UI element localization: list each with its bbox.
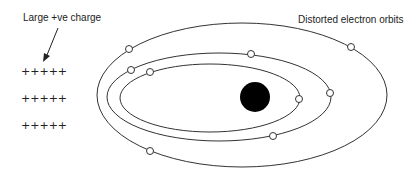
positive-charge-row: +++++ (21, 92, 67, 105)
electrons (126, 44, 355, 155)
electron (147, 148, 154, 155)
orbits-label: Distorted electron orbits (298, 14, 404, 25)
electron (296, 96, 303, 103)
charge-label: Large +ve charge (23, 12, 101, 23)
electron (147, 69, 154, 76)
electron (327, 90, 334, 97)
positive-charge-row: +++++ (21, 65, 67, 78)
arrow-icon (43, 28, 58, 62)
nucleus (240, 82, 270, 112)
positive-charge-row: +++++ (21, 119, 67, 132)
electron (270, 133, 277, 140)
electron (248, 51, 255, 58)
electron (348, 44, 355, 51)
atom-diagram (0, 0, 420, 177)
electron (126, 46, 133, 53)
electron (128, 67, 135, 74)
